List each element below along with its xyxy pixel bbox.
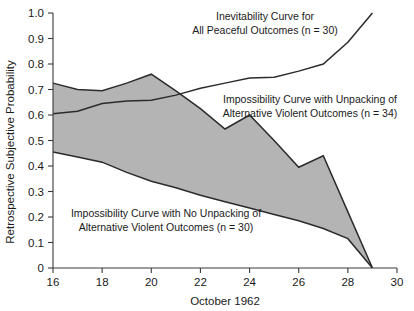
- y-tick-label: 0.4: [28, 160, 45, 172]
- y-tick-label: 0.8: [28, 58, 44, 70]
- x-axis-title: October 1962: [190, 295, 260, 307]
- x-tick-label: 28: [341, 276, 354, 288]
- inevitability-annotation: Inevitability Curve for All Peaceful Out…: [192, 10, 338, 36]
- y-tick-label: 0.1: [28, 237, 44, 249]
- chart-figure: 00.10.20.30.40.50.60.70.80.91.0 16182022…: [0, 0, 414, 311]
- x-tick-label: 24: [243, 276, 256, 288]
- y-axis-title: Retrospective Subjective Probability: [4, 60, 16, 244]
- no-unpacking-annotation: Impossibility Curve with No Unpacking of…: [71, 207, 261, 233]
- y-tick-label: 0.2: [28, 211, 44, 223]
- y-tick-label: 0.6: [28, 109, 44, 121]
- inevitability-annotation-line2: All Peaceful Outcomes (n = 30): [192, 24, 338, 36]
- chart-container: 00.10.20.30.40.50.60.70.80.91.0 16182022…: [0, 0, 414, 311]
- y-tick-label: 1.0: [28, 7, 44, 19]
- y-axis-ticks: 00.10.20.30.40.50.60.70.80.91.0: [28, 7, 53, 274]
- inevitability-annotation-line1: Inevitability Curve for: [216, 10, 315, 22]
- x-tick-label: 26: [292, 276, 305, 288]
- y-tick-label: 0.9: [28, 33, 44, 45]
- y-tick-label: 0.5: [28, 135, 44, 147]
- x-tick-label: 20: [145, 276, 158, 288]
- unpacking-annotation-line1: Impossibility Curve with Unpacking of: [223, 93, 397, 105]
- y-tick-label: 0.3: [28, 186, 44, 198]
- x-tick-label: 18: [96, 276, 109, 288]
- x-axis-ticks: 1618202224262830: [47, 268, 404, 288]
- y-tick-label: 0: [38, 262, 44, 274]
- unpacking-annotation-line2: Alternative Violent Outcomes (n = 34): [223, 107, 398, 119]
- x-tick-label: 16: [47, 276, 60, 288]
- x-tick-label: 30: [391, 276, 404, 288]
- unpacking-annotation: Impossibility Curve with Unpacking of Al…: [223, 93, 398, 119]
- no-unpacking-annotation-line2: Alternative Violent Outcomes (n = 30): [79, 221, 254, 233]
- no-unpacking-annotation-line1: Impossibility Curve with No Unpacking of: [71, 207, 261, 219]
- y-tick-label: 0.7: [28, 84, 44, 96]
- x-tick-label: 22: [194, 276, 207, 288]
